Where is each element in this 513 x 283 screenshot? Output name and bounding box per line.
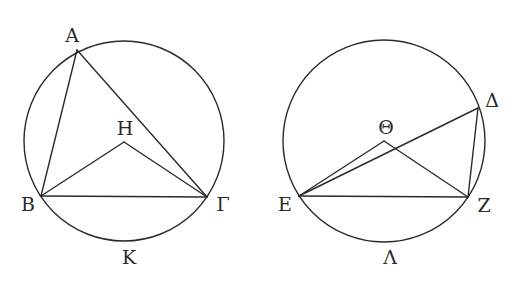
segment-d-z	[468, 108, 478, 197]
point-label-b: Β	[21, 193, 35, 215]
segment-e-th	[299, 141, 384, 196]
point-label-g: Γ	[216, 193, 229, 215]
segment-e-z	[299, 196, 468, 197]
point-label-th: Θ	[378, 116, 394, 138]
segment-b-h	[41, 142, 124, 196]
point-label-d: Δ	[485, 89, 499, 111]
left-circle-figure: ΑΒΓΗΚ	[21, 24, 230, 268]
geometry-figure: ΑΒΓΗΚ ΔΘΕΖΛ	[0, 0, 513, 283]
point-label-h: Η	[117, 117, 134, 139]
point-label-e: Ε	[278, 193, 292, 215]
segment-a-b	[41, 50, 77, 196]
point-label-a: Α	[64, 24, 79, 46]
right-circle-figure: ΔΘΕΖΛ	[278, 40, 499, 268]
point-label-z: Ζ	[477, 194, 490, 216]
diagram-canvas: ΑΒΓΗΚ ΔΘΕΖΛ	[0, 0, 513, 283]
point-label-k: Κ	[122, 246, 137, 268]
segment-th-z	[384, 141, 468, 197]
point-label-l: Λ	[382, 246, 397, 268]
segment-b-g	[41, 196, 207, 197]
segment-a-g	[77, 50, 207, 197]
